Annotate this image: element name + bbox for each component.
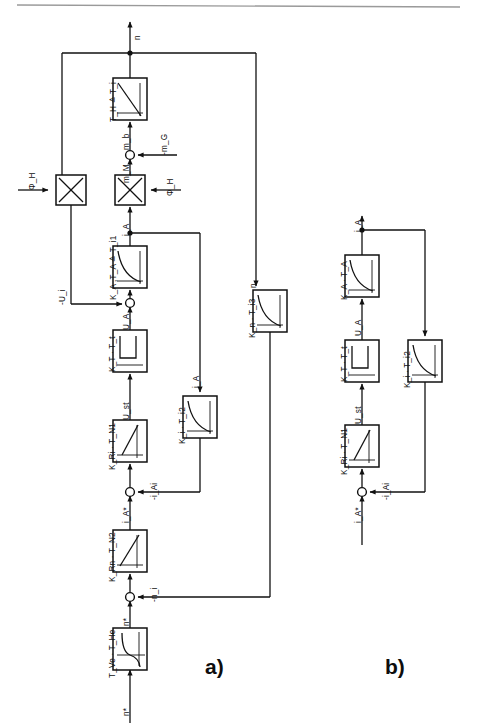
block-tve-the [113,628,147,670]
panel-b-junctions [358,488,367,497]
label-signal-ia-mult: i_A [122,224,131,236]
label-signal-n-star-input: n* [122,708,131,716]
label-block-ki-ti2: K_i · T_i2 [178,407,187,444]
top-rule [17,5,460,7]
sum-junction-speed [126,593,135,602]
label-block-ka-ta-b: K_A · T_A [340,261,349,300]
sum-junction-current [126,488,135,497]
label-block-kn-ti3: K_n · T_i3 [248,298,257,338]
label-signal-ui-feedback: -U_i [58,289,67,305]
label-signal-ust-b: U_st [354,406,363,424]
block-kri-tn1-b [345,425,379,467]
label-signal-ua-b: U_A [354,319,363,336]
label-signal-ia-star-b: i_A* [354,507,363,523]
multiplier-left [56,175,86,205]
label-signal-n-output: n [133,35,142,40]
sum-junction-current-b [358,488,367,497]
label-signal-n-feedback: n [249,283,258,288]
label-block-kri-tn1: K_Ri · T_N1 [108,423,117,470]
sum-junction-torque [126,151,135,160]
label-signal-ni: -n_i [150,588,159,602]
block-ka-ta [113,246,147,288]
label-block-kri-tn1-b: K_Ri · T_N1 [340,428,349,475]
figure-canvas: T_H ≙ T_i K_A ,T_A ≙ T_i1 K_T · T_t K_Ri… [0,0,477,723]
label-signal-iai-b: -i_Ai [382,483,391,500]
panel-a-multipliers [56,175,145,205]
block-ki-ti2-b [408,340,442,382]
panel-b-blocks [345,255,442,467]
panel-label-b: b) [385,655,405,679]
label-signal-ia-output-b: i_A [354,220,363,232]
label-block-tve-the: T_Ve · T_He [108,630,117,678]
label-signal-iai: -i_Ai [150,483,159,500]
block-kt-tt [113,330,147,372]
label-signal-ia-star: i_A* [122,507,131,523]
label-signal-ua: U_A [122,313,131,330]
block-krn-tn2 [113,530,147,572]
label-signal-phih-left: Φ_H [28,172,37,190]
block-kn-ti3 [253,290,287,332]
label-block-kt-tt: K_T · T_t [108,336,117,372]
label-block-ki-ti2-b: K_i · T_i2 [403,351,412,388]
label-signal-phih-right: Φ_H [166,178,175,196]
label-block-krn-tn2: K_Rn · T_N2 [108,532,117,582]
block-ka-ta-b [345,255,379,297]
label-block-ka-ta: K_A ,T_A ≙ T_i1 [108,236,118,300]
label-signal-ia-branch: i_A [192,376,201,388]
label-signal-n-star-mid: n* [122,618,131,626]
block-th-ti [113,78,147,120]
block-kri-tn1 [113,420,147,462]
block-ki-ti2 [183,396,217,438]
sum-junction-voltage [126,299,135,308]
label-signal-mg: -m_G [160,134,169,155]
label-block-th-ti: T_H ≙ T_i [108,82,118,122]
label-signal-mm: m_M [122,164,131,183]
label-block-kt-tt-b: K_T · T_t [340,346,349,382]
label-signal-mb: m_b [122,133,131,150]
panel-label-a: a) [205,655,224,679]
block-kt-tt-b [345,340,379,382]
label-signal-ust: U_st [122,402,131,420]
